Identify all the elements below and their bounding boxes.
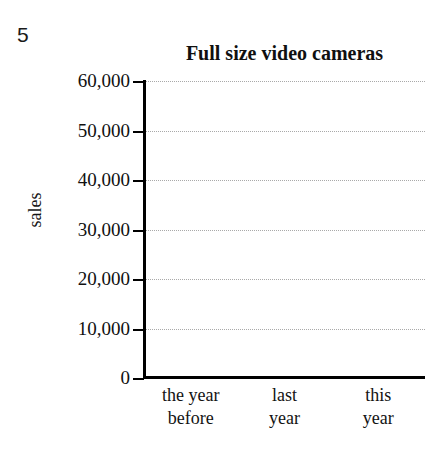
x-axis-line [143,376,425,379]
gridline [144,329,425,330]
worksheet-page: 5 Full size video cameras sales 60,00050… [0,0,434,458]
y-axis-tick-label: 10,000 [10,319,130,338]
y-axis-tick-label: 20,000 [10,269,130,288]
chart-title: Full size video cameras [144,42,425,64]
x-axis-category-label-line1: this [318,384,434,407]
y-axis-tick-label: 30,000 [10,220,130,239]
gridline [144,279,425,280]
y-axis-tick-label: 40,000 [10,170,130,189]
gridline [144,180,425,181]
y-axis-tick-label: 0 [10,368,130,387]
x-axis-category-label: thisyear [318,384,434,430]
y-axis-line [143,80,146,379]
y-axis-tick-label: 50,000 [10,121,130,140]
bar-chart-figure: Full size video cameras sales 60,00050,0… [0,0,434,458]
plot-area [144,81,425,378]
x-axis-category-label-line2: year [318,407,434,430]
y-axis-tick-label: 60,000 [10,71,130,90]
gridline [144,81,425,82]
gridline [144,230,425,231]
gridline [144,131,425,132]
